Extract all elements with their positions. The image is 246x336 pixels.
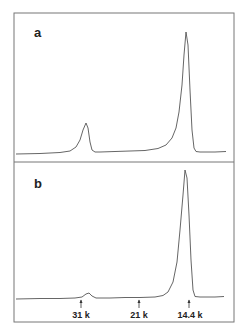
marker-label-21k: 21 k <box>130 310 149 320</box>
arrow-up-icon <box>138 300 141 304</box>
panel-b: b 31 k 21 k 14.4 k <box>16 170 224 320</box>
marker-label-31k: 31 k <box>72 310 91 320</box>
marker-14-4k: 14.4 k <box>177 300 203 321</box>
figure: a b 31 k 21 k 14.4 k <box>0 0 246 336</box>
panel-b-label: b <box>34 176 42 191</box>
arrow-up-icon <box>80 300 83 304</box>
panel-a: a <box>16 25 226 154</box>
marker-21k: 21 k <box>130 300 149 321</box>
trace-a <box>16 32 226 154</box>
marker-label-14-4k: 14.4 k <box>177 310 203 320</box>
figure-frame <box>14 13 234 322</box>
marker-31k: 31 k <box>72 300 91 321</box>
trace-b <box>16 170 224 299</box>
panel-a-label: a <box>34 25 42 40</box>
arrow-up-icon <box>188 300 191 304</box>
